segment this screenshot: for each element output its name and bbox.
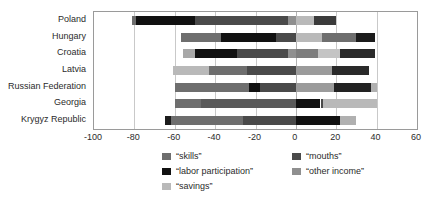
bar-segment xyxy=(221,33,276,42)
legend-swatch-icon xyxy=(292,153,301,160)
bar-segment xyxy=(314,16,336,25)
bar-segment xyxy=(356,33,374,42)
bar-segment xyxy=(175,99,201,108)
x-tick-label: 20 xyxy=(330,133,340,142)
bar-row xyxy=(94,116,417,125)
legend-item[interactable]: “labor participation” xyxy=(162,167,253,176)
bar-series-group xyxy=(94,12,417,129)
bar-row xyxy=(94,49,417,58)
x-tick-label: 40 xyxy=(371,133,381,142)
bar-segment xyxy=(296,16,314,25)
category-label: Croatia xyxy=(57,48,86,57)
bar-segment xyxy=(296,116,340,125)
x-tick-label: -40 xyxy=(208,133,221,142)
bar-segment xyxy=(276,33,296,42)
bar-segment xyxy=(173,66,209,75)
bar-segment xyxy=(288,49,296,58)
bar-segment xyxy=(260,83,296,92)
bar-segment xyxy=(195,16,288,25)
bar-segment xyxy=(175,83,250,92)
x-tick-label: -100 xyxy=(84,133,102,142)
category-label: Krygyz Republic xyxy=(21,115,86,124)
legend-label: “mouths” xyxy=(306,152,342,161)
bar-segment xyxy=(340,116,356,125)
bar-segment xyxy=(296,49,318,58)
bar-segment xyxy=(296,66,332,75)
category-label: Poland xyxy=(58,15,86,24)
value-axis: -100-80-60-40-200204060 xyxy=(93,131,418,145)
legend-swatch-icon xyxy=(162,153,171,160)
legend-label: “savings” xyxy=(176,182,213,191)
bar-segment xyxy=(323,99,376,108)
bar-segment xyxy=(136,16,195,25)
category-label: Latvia xyxy=(62,65,86,74)
bar-segment xyxy=(237,49,287,58)
bar-segment xyxy=(171,116,244,125)
legend-swatch-icon xyxy=(162,183,171,190)
bar-segment xyxy=(340,49,374,58)
bar-segment xyxy=(181,33,221,42)
category-axis-labels: PolandHungaryCroatiaLatviaRussian Federa… xyxy=(0,11,90,130)
legend-item[interactable]: “mouths” xyxy=(292,152,342,161)
legend-label: “labor participation” xyxy=(176,167,253,176)
bar-segment xyxy=(247,66,295,75)
plot-area xyxy=(93,11,418,130)
bar-segment xyxy=(322,33,356,42)
legend-label: “other income” xyxy=(306,167,364,176)
bar-segment xyxy=(201,99,296,108)
bar-segment xyxy=(249,83,259,92)
legend-item[interactable]: “savings” xyxy=(162,182,213,191)
bar-segment xyxy=(183,49,195,58)
bar-segment xyxy=(371,83,377,92)
category-label: Russian Federation xyxy=(8,82,86,91)
bar-row xyxy=(94,33,417,42)
bar-segment xyxy=(332,66,368,75)
bar-segment xyxy=(318,49,340,58)
bar-segment xyxy=(209,66,247,75)
bar-row xyxy=(94,83,417,92)
bar-segment xyxy=(296,33,322,42)
bar-segment xyxy=(296,99,320,108)
category-label: Georgia xyxy=(54,98,86,107)
x-tick-label: -20 xyxy=(248,133,261,142)
x-tick-label: 0 xyxy=(292,133,297,142)
x-tick-label: -80 xyxy=(127,133,140,142)
bar-segment xyxy=(334,83,370,92)
x-tick-label: -60 xyxy=(167,133,180,142)
chart-container: PolandHungaryCroatiaLatviaRussian Federa… xyxy=(0,0,432,205)
legend-label: “skills” xyxy=(176,152,202,161)
bar-segment xyxy=(288,16,296,25)
bar-segment xyxy=(296,83,334,92)
bar-segment xyxy=(195,49,237,58)
bar-segment xyxy=(243,116,295,125)
x-tick-label: 60 xyxy=(411,133,421,142)
legend-item[interactable]: “skills” xyxy=(162,152,202,161)
bar-row xyxy=(94,66,417,75)
bar-row xyxy=(94,16,417,25)
legend-item[interactable]: “other income” xyxy=(292,167,364,176)
bar-row xyxy=(94,99,417,108)
legend-swatch-icon xyxy=(292,168,301,175)
legend-swatch-icon xyxy=(162,168,171,175)
chart-legend: “skills”“labor participation”“savings”“m… xyxy=(0,150,432,200)
category-label: Hungary xyxy=(52,32,86,41)
